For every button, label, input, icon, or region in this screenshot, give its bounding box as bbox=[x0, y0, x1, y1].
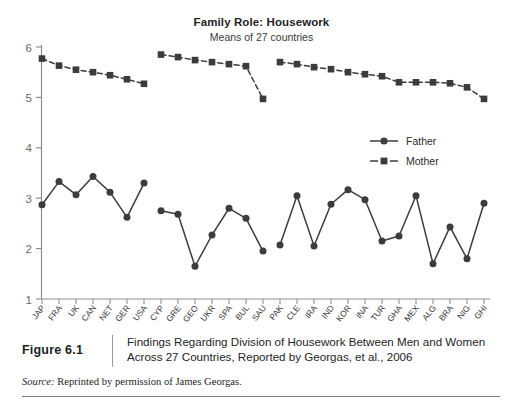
data-point-mother bbox=[379, 73, 386, 80]
data-point-father bbox=[481, 200, 488, 207]
data-point-mother bbox=[345, 69, 352, 76]
data-point-mother bbox=[226, 61, 233, 68]
source-text: Reprinted by permission of James Georgas… bbox=[55, 376, 242, 387]
data-point-mother bbox=[209, 59, 216, 66]
caption-divider bbox=[112, 335, 113, 367]
data-point-mother bbox=[277, 59, 284, 66]
x-axis-tick-label: GER bbox=[113, 303, 132, 323]
y-axis-tick-label: 4 bbox=[26, 142, 33, 154]
data-point-mother bbox=[362, 71, 369, 78]
data-point-mother bbox=[158, 51, 165, 58]
data-point-father bbox=[243, 215, 250, 222]
x-axis-tick-label: UKR bbox=[198, 303, 217, 323]
x-axis-tick-label: IRA bbox=[303, 303, 320, 320]
series-line-mother bbox=[280, 62, 484, 99]
data-point-mother bbox=[294, 61, 301, 68]
data-point-father bbox=[362, 196, 369, 203]
x-axis-tick-label: NET bbox=[97, 303, 115, 322]
figure-caption-text: Findings Regarding Division of Housework… bbox=[127, 335, 517, 364]
data-point-father bbox=[260, 248, 267, 255]
x-axis-tick-label: BUL bbox=[233, 303, 251, 322]
x-axis-tick-label: GHA bbox=[385, 303, 404, 324]
data-point-mother bbox=[73, 66, 80, 73]
y-axis-tick-label: 3 bbox=[26, 193, 32, 205]
figure-caption-block: Figure 6.1 Findings Regarding Division o… bbox=[0, 330, 523, 402]
data-point-father bbox=[141, 180, 148, 187]
data-point-father bbox=[175, 211, 182, 218]
data-point-mother bbox=[260, 96, 267, 103]
x-axis-tick-label: GHI bbox=[472, 303, 489, 321]
y-axis-tick-label: 1 bbox=[26, 294, 32, 306]
data-point-father bbox=[294, 192, 301, 199]
data-point-father bbox=[430, 260, 437, 267]
data-point-mother bbox=[141, 80, 148, 87]
data-point-father bbox=[328, 201, 335, 208]
x-axis-tick-label: ALG bbox=[420, 303, 438, 322]
data-point-mother bbox=[396, 79, 403, 86]
y-axis-tick-label: 5 bbox=[26, 92, 32, 104]
figure-source: Source: Reprinted by permission of James… bbox=[22, 376, 502, 387]
y-axis-tick-label: 6 bbox=[26, 42, 32, 54]
x-axis-tick-label: CYP bbox=[148, 303, 167, 323]
data-point-father bbox=[124, 214, 131, 221]
x-axis-tick-label: NIG bbox=[455, 303, 472, 321]
y-axis-tick-label: 2 bbox=[26, 243, 32, 255]
data-point-father bbox=[39, 201, 46, 208]
legend-marker-mother bbox=[381, 158, 388, 165]
data-point-mother bbox=[107, 72, 114, 79]
x-axis-tick-label: MEX bbox=[402, 303, 421, 324]
x-axis-tick-label: GRE bbox=[164, 303, 183, 324]
data-point-mother bbox=[464, 84, 471, 91]
x-axis-tick-label: CAN bbox=[79, 303, 98, 323]
data-point-mother bbox=[90, 69, 97, 76]
data-point-father bbox=[192, 263, 199, 270]
data-point-mother bbox=[124, 76, 131, 83]
x-axis-tick-label: TUR bbox=[369, 303, 387, 323]
data-point-father bbox=[413, 192, 420, 199]
x-axis-tick-label: KOR bbox=[334, 303, 353, 323]
data-point-mother bbox=[175, 54, 182, 61]
data-point-mother bbox=[447, 80, 454, 87]
horizontal-rule bbox=[22, 396, 500, 397]
legend-label-father: Father bbox=[406, 135, 437, 147]
data-point-father bbox=[158, 207, 165, 214]
data-point-mother bbox=[413, 79, 420, 86]
legend-label-mother: Mother bbox=[406, 155, 439, 167]
figure-number: Figure 6.1 bbox=[22, 343, 83, 357]
data-point-mother bbox=[243, 63, 250, 70]
data-point-father bbox=[209, 231, 216, 238]
data-point-mother bbox=[39, 55, 46, 62]
data-point-mother bbox=[328, 66, 335, 73]
x-axis-tick-label: BRA bbox=[437, 303, 456, 323]
figure-container: Family Role: Housework Means of 27 count… bbox=[0, 0, 523, 402]
data-point-father bbox=[345, 186, 352, 193]
line-chart: 123456JAPFRAUKCANNETGERUSACYPGREGEOUKRSP… bbox=[0, 0, 523, 330]
x-axis-tick-label: INA bbox=[354, 303, 371, 320]
data-point-mother bbox=[311, 64, 318, 71]
data-point-father bbox=[396, 233, 403, 240]
data-point-father bbox=[447, 223, 454, 230]
data-point-mother bbox=[192, 57, 199, 64]
data-point-mother bbox=[430, 79, 437, 86]
data-point-father bbox=[464, 255, 471, 262]
x-axis-tick-label: SAU bbox=[250, 303, 268, 323]
data-point-father bbox=[56, 178, 63, 185]
chart-plot-area: 123456JAPFRAUKCANNETGERUSACYPGREGEOUKRSP… bbox=[0, 0, 523, 330]
x-axis-tick-label: SPA bbox=[216, 303, 234, 322]
data-point-father bbox=[277, 242, 284, 249]
data-point-father bbox=[379, 238, 386, 245]
data-point-father bbox=[226, 205, 233, 212]
data-point-father bbox=[311, 243, 318, 250]
data-point-mother bbox=[481, 96, 488, 103]
data-point-father bbox=[73, 191, 80, 198]
x-axis-tick-label: JAP bbox=[30, 303, 48, 322]
data-point-father bbox=[90, 173, 97, 180]
source-prefix: Source: bbox=[22, 376, 55, 387]
legend-marker-father bbox=[380, 137, 387, 144]
data-point-father bbox=[107, 189, 114, 196]
x-axis-tick-label: FRA bbox=[46, 303, 64, 323]
x-axis-tick-label: GEO bbox=[181, 303, 201, 324]
x-axis-tick-label: CLE bbox=[284, 303, 302, 322]
x-axis-tick-label: USA bbox=[131, 303, 150, 323]
data-point-mother bbox=[56, 62, 63, 69]
